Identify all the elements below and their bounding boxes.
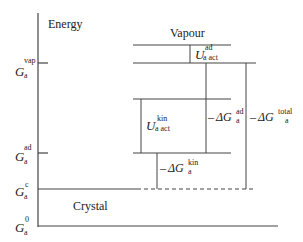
axis-title: Energy (48, 17, 82, 31)
label-u-kin-act: U kin a act (146, 114, 171, 133)
svg-text:–: – (159, 161, 167, 175)
label-dg-ad: – ΔG ad a (207, 107, 244, 125)
label-g-c: G c a (15, 180, 29, 201)
svg-text:c: c (25, 180, 29, 189)
label-g-0: G 0 a (15, 215, 29, 237)
svg-text:a: a (285, 116, 289, 125)
svg-text:–: – (207, 110, 215, 124)
label-g-ad: G ad a (15, 143, 32, 166)
svg-text:a act: a act (155, 124, 171, 133)
svg-text:ΔG: ΔG (257, 110, 274, 124)
svg-text:ΔG: ΔG (167, 161, 184, 175)
svg-text:–: – (249, 110, 257, 124)
label-g-vap: G vap a (15, 56, 36, 80)
crystal-label: Crystal (73, 199, 108, 213)
label-dg-total: – ΔG total a (249, 107, 293, 125)
energy-level-diagram: Energy Crystal Vapour G vap a G ad a G c… (0, 0, 303, 242)
svg-text:a: a (24, 71, 28, 80)
svg-text:ad: ad (24, 143, 32, 152)
svg-text:ad: ad (205, 43, 213, 52)
svg-text:a: a (236, 116, 240, 125)
svg-text:ad: ad (236, 107, 244, 116)
svg-text:a: a (24, 157, 28, 166)
vapour-label: Vapour (170, 26, 205, 40)
svg-text:a: a (24, 192, 28, 201)
svg-text:a act: a act (203, 53, 219, 62)
svg-text:total: total (278, 107, 293, 116)
svg-text:ΔG: ΔG (215, 110, 232, 124)
svg-text:a: a (188, 167, 192, 176)
svg-text:kin: kin (188, 158, 198, 167)
label-dg-kin: – ΔG kin a (159, 158, 198, 176)
svg-text:0: 0 (25, 215, 29, 224)
svg-text:a: a (24, 228, 28, 237)
svg-text:kin: kin (157, 114, 167, 123)
label-u-ad-act: U ad a act (195, 43, 219, 62)
svg-text:vap: vap (24, 56, 36, 65)
